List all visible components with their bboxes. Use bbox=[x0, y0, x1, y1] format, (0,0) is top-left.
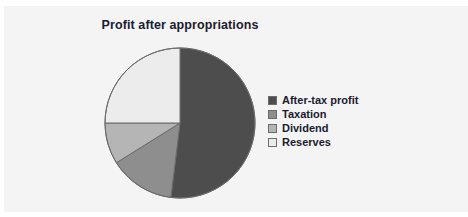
legend-item-label: Reserves bbox=[282, 136, 331, 149]
pie-slice-group bbox=[105, 48, 255, 198]
legend-swatch-icon bbox=[268, 138, 277, 147]
pie-chart-figure: Profit after appropriations After-tax pr… bbox=[0, 0, 468, 217]
pie-slice[interactable] bbox=[105, 48, 180, 123]
pie-plot-area bbox=[0, 0, 468, 217]
pie-slice[interactable] bbox=[171, 48, 255, 198]
pie-svg bbox=[0, 0, 468, 217]
legend-item-label: After-tax profit bbox=[282, 94, 358, 107]
legend-item-label: Dividend bbox=[282, 122, 328, 135]
legend-swatch-icon bbox=[268, 124, 277, 133]
legend-swatch-icon bbox=[268, 96, 277, 105]
legend-item-after-tax-profit[interactable]: After-tax profit bbox=[268, 94, 358, 107]
legend-item-taxation[interactable]: Taxation bbox=[268, 108, 358, 121]
legend-item-dividend[interactable]: Dividend bbox=[268, 122, 358, 135]
legend-item-reserves[interactable]: Reserves bbox=[268, 136, 358, 149]
legend-swatch-icon bbox=[268, 110, 277, 119]
legend-item-label: Taxation bbox=[282, 108, 326, 121]
chart-legend: After-tax profit Taxation Dividend Reser… bbox=[268, 94, 358, 149]
